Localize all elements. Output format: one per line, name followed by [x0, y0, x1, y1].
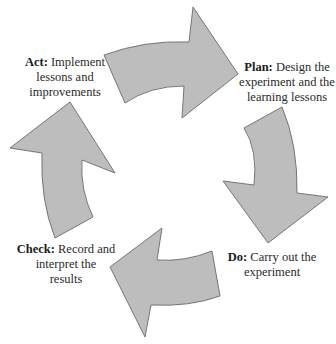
plan-line-1: Design the	[276, 60, 330, 74]
do-keyword: Do:	[228, 250, 247, 264]
check-line-3: results	[8, 272, 124, 287]
stage-label-act: Act: Implement lessons and improvements	[4, 55, 126, 100]
act-line-2: lessons and	[4, 70, 126, 85]
stage-label-plan: Plan: Design the experiment and the lear…	[232, 60, 336, 105]
check-line-2: interpret the	[8, 257, 124, 272]
cycle-arrows	[0, 0, 336, 344]
plan-keyword: Plan:	[244, 60, 272, 74]
stage-label-check: Check: Record and interpret the results	[8, 242, 124, 287]
do-line-2: experiment	[222, 265, 322, 280]
act-line-3: improvements	[4, 85, 126, 100]
act-keyword: Act:	[25, 55, 48, 69]
do-line-1: Carry out the	[250, 250, 316, 264]
arrow-do-to-check-icon	[110, 228, 220, 337]
act-line-1: Implement	[51, 55, 105, 69]
check-line-1: Record and	[58, 242, 115, 256]
pdca-cycle-diagram: Act: Implement lessons and improvements …	[0, 0, 336, 344]
plan-line-3: learning lessons	[232, 90, 336, 105]
stage-label-do: Do: Carry out the experiment	[222, 250, 322, 280]
check-keyword: Check:	[17, 242, 55, 256]
plan-line-2: experiment and the	[232, 75, 336, 90]
arrow-check-to-act-icon	[10, 102, 115, 238]
arrow-plan-to-do-icon	[223, 107, 328, 243]
